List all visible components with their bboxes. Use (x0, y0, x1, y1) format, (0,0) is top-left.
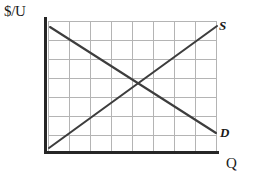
x-axis-label: Q (226, 156, 237, 171)
demand-curve-label: D (220, 126, 229, 139)
y-axis-label: $/U (4, 4, 26, 19)
supply-curve-label: S (219, 19, 226, 32)
supply-demand-chart: $/U Q S D (0, 0, 257, 181)
